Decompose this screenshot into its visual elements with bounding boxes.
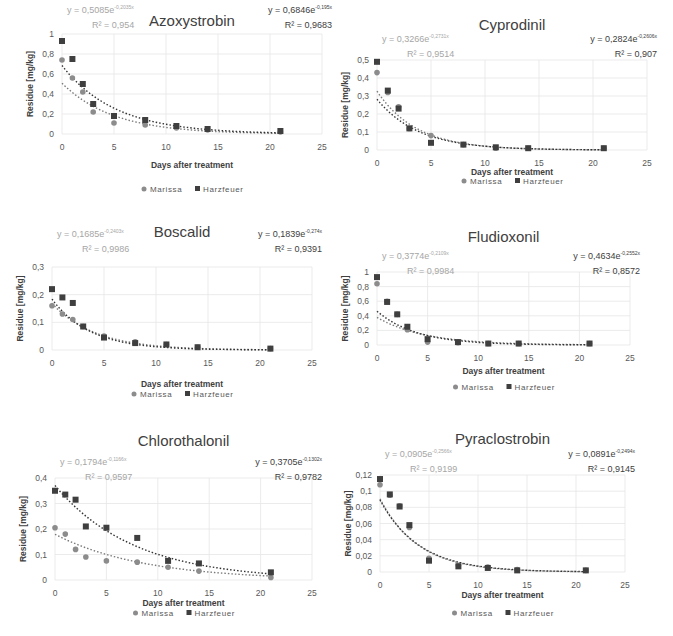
x-tick-label: 10 (153, 588, 163, 598)
legend-marker-marissa (462, 179, 467, 184)
data-point (493, 144, 499, 150)
x-tick-label: 5 (112, 142, 117, 152)
y-axis-label: Residue [mg/kg] (343, 490, 353, 556)
y-tick-label: 0,3 (35, 499, 47, 509)
y-tick-label: 0,6 (42, 69, 54, 79)
data-point (111, 113, 117, 119)
y-axis-label: Residue [mg/kg] (25, 51, 35, 117)
r2-harzfeuer: R² = 0,9391 (275, 244, 322, 254)
y-tick-label: 0,1 (32, 317, 44, 327)
data-point (455, 563, 461, 569)
legend-marker-marissa (133, 611, 138, 616)
trendline-harzfeuer (380, 500, 586, 572)
x-tick-label: 0 (53, 588, 58, 598)
legend-marker-marissa (132, 392, 137, 397)
trendline-marissa (380, 499, 586, 572)
x-tick-label: 25 (625, 353, 635, 363)
r2-harzfeuer: R² = 0,9145 (588, 464, 635, 474)
data-point (205, 126, 211, 132)
series-marissa (52, 525, 273, 580)
series-marissa (374, 281, 592, 346)
chart-title: Azoxystrobin (149, 12, 235, 29)
x-tick-label: 25 (317, 142, 327, 152)
data-point (404, 324, 410, 330)
data-point (163, 341, 169, 347)
legend: MarissaHarzfeuer (452, 609, 554, 618)
equation-marissa: y = 0,3266e-0,2731x (382, 33, 449, 44)
y-tick-label: 0,1 (360, 486, 372, 496)
chart-title: Pyraclostrobin (455, 430, 550, 447)
data-point (397, 504, 403, 510)
legend-label-marissa: Marissa (461, 609, 493, 618)
data-point (80, 81, 86, 87)
data-point (111, 120, 117, 126)
data-point (196, 560, 202, 566)
x-tick-label: 20 (588, 158, 598, 168)
data-point (384, 299, 390, 305)
data-point (525, 145, 531, 151)
x-tick-label: 20 (571, 580, 581, 590)
data-point (173, 123, 179, 129)
data-point (59, 38, 65, 44)
data-point (374, 70, 380, 76)
data-point (134, 559, 140, 565)
data-point (428, 140, 434, 146)
y-tick-label: 0,04 (355, 535, 372, 545)
y-tick-label: 1 (364, 267, 369, 277)
data-point (59, 294, 65, 300)
series-harzfeuer (374, 59, 607, 151)
x-tick-label: 5 (102, 358, 107, 368)
y-tick-label: 0,06 (355, 519, 372, 529)
x-tick-label: 15 (204, 588, 214, 598)
x-tick-label: 5 (104, 588, 109, 598)
data-point (277, 128, 283, 134)
x-tick-label: 5 (429, 158, 434, 168)
y-tick-label: 0,2 (32, 290, 44, 300)
legend-label-harzfeuer: Harzfeuer (195, 609, 236, 618)
data-point (377, 476, 383, 482)
y-tick-label: 0,4 (357, 73, 369, 83)
x-tick-label: 25 (307, 588, 317, 598)
data-point (142, 117, 148, 123)
data-point (49, 303, 55, 309)
data-point (514, 567, 520, 573)
x-tick-label: 10 (473, 580, 483, 590)
y-tick-label: 0,3 (357, 91, 369, 101)
equation-harzfeuer: y = 0,0891e-0,2494x (568, 448, 635, 459)
trendline-harzfeuer (62, 66, 280, 133)
x-axis-label: Days after treatment (461, 590, 543, 600)
x-axis-label: Days after treatment (471, 167, 553, 177)
y-tick-label: 0,08 (355, 502, 372, 512)
gridlines (377, 60, 647, 150)
equation-harzfeuer: y = 0,1839e-0,274x (258, 228, 322, 239)
legend-label-harzfeuer: Harzfeuer (193, 390, 234, 399)
x-tick-label: 15 (522, 580, 532, 590)
legend-label-harzfeuer: Harzfeuer (523, 177, 564, 186)
legend-label-harzfeuer: Harzfeuer (515, 383, 556, 392)
chart-boscalid: Boscalid00,10,20,30510152025Days after t… (0, 212, 336, 424)
data-point (374, 274, 380, 280)
legend: MarissaHarzfeuer (132, 390, 234, 399)
gridlines (52, 267, 312, 350)
r2-marissa: R² = 0,9984 (407, 266, 454, 276)
chart-title: Chlorothalonil (138, 432, 230, 449)
y-axis-label: Residue [mg/kg] (18, 496, 28, 562)
data-point (83, 523, 89, 529)
legend-marker-harzfeuer (187, 610, 192, 615)
series-harzfeuer (52, 488, 274, 576)
data-point (90, 109, 96, 115)
trendline-harzfeuer (377, 99, 604, 150)
x-tick-label: 15 (203, 358, 213, 368)
chart-svg: Boscalid00,10,20,30510152025Days after t… (0, 212, 336, 424)
y-axis-label: Residue [mg/kg] (340, 275, 350, 341)
equation-marissa: y = 0,5085e-0,2035x (67, 4, 134, 15)
chart-title: Fludioxonil (468, 228, 540, 245)
legend-marker-harzfeuer (185, 391, 190, 396)
y-tick-label: 1 (49, 29, 54, 39)
equation-harzfeuer: y = 0,4634e-0,2552x (573, 250, 640, 261)
data-point (60, 311, 66, 317)
data-point (425, 336, 431, 342)
legend-marker-marissa (142, 187, 147, 192)
x-tick-label: 0 (50, 358, 55, 368)
trendline-marissa (377, 91, 604, 150)
